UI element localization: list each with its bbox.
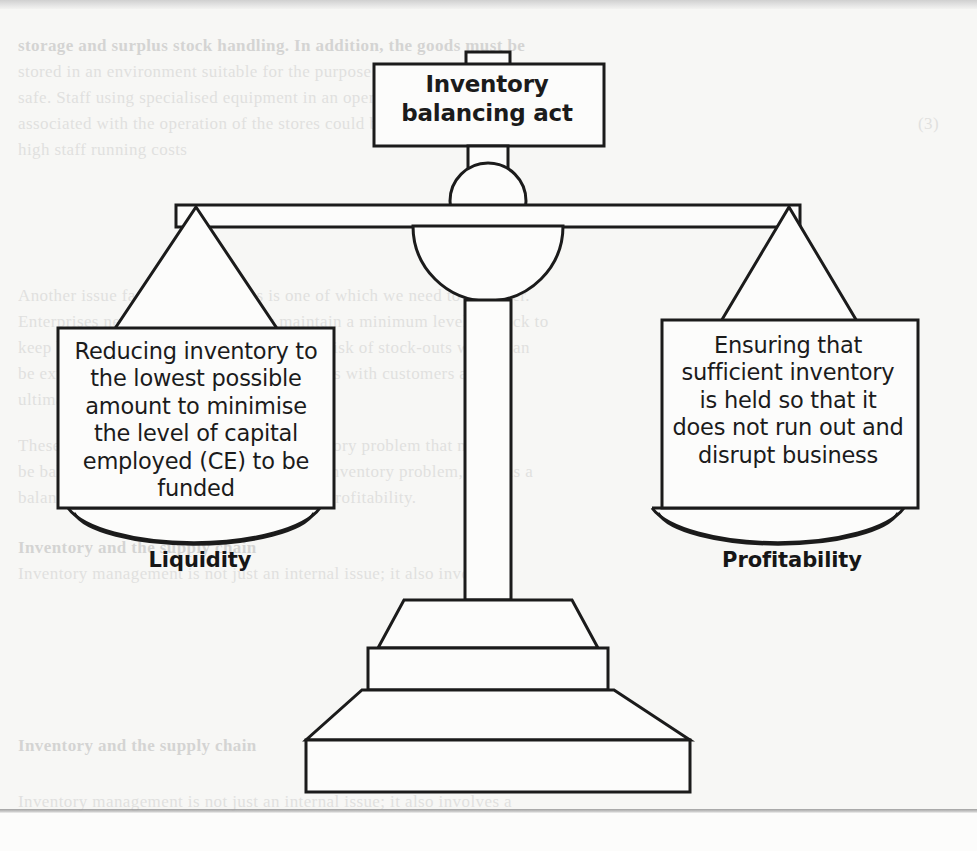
pedestal-lower-front [306,740,690,792]
pedestal-lower-top [306,690,690,740]
left-statement-line: the level of capital [62,420,330,447]
left-pan-bowl [68,508,320,543]
left-statement-text: Reducing inventory to the lowest possibl… [62,338,330,503]
pedestal-middle-block [368,648,608,690]
right-statement-line: disrupt business [662,442,914,469]
left-statement-line: funded [62,475,330,502]
right-statement-line: is held so that it [662,387,914,414]
right-statement-text: Ensuring that sufficient inventory is he… [662,332,914,469]
fulcrum-head [413,226,563,301]
diagram-title-line-1: Inventory [377,70,597,99]
diagram-title-line-2: balancing act [377,99,597,128]
left-pan-label: Liquidity [95,548,305,572]
right-statement-line: does not run out and [662,414,914,441]
balance-beam [176,205,800,227]
diagram-title: Inventory balancing act [377,70,597,128]
right-pan-label: Profitability [672,548,912,572]
center-column [465,300,511,600]
left-statement-line: the lowest possible [62,365,330,392]
left-statement-line: amount to minimise [62,393,330,420]
right-statement-line: Ensuring that [662,332,914,359]
left-statement-line: employed (CE) to be [62,448,330,475]
left-statement-line: Reducing inventory to [62,338,330,365]
pedestal-upper-slab [378,600,598,648]
right-statement-line: sufficient inventory [662,359,914,386]
right-pan-bowl [652,508,904,543]
